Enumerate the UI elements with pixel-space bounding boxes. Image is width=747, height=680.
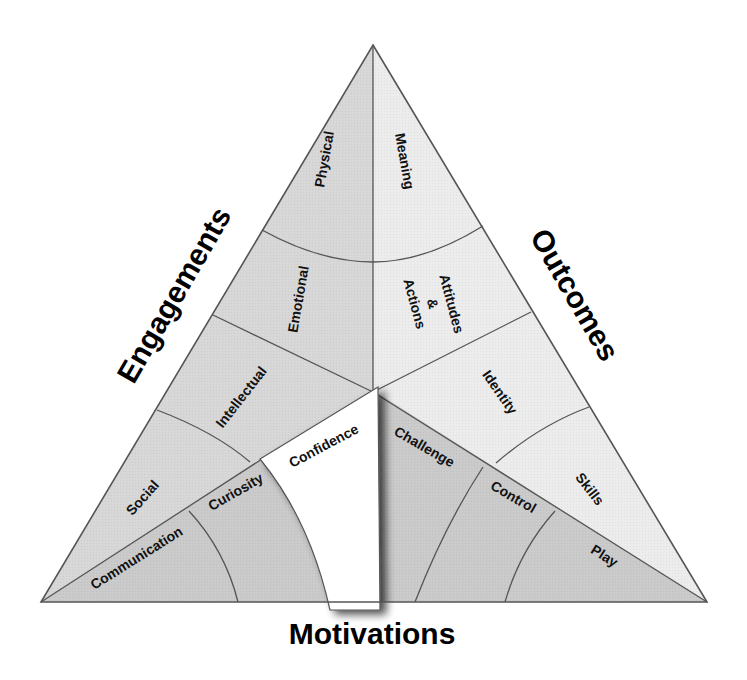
axis-label-motivations: Motivations <box>289 617 456 650</box>
triangle-diagram: Physical Emotional Intellectual Social C… <box>0 0 747 680</box>
